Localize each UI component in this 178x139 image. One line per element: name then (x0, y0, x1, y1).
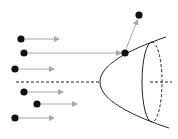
particle-5 (33, 100, 40, 107)
incoming-particles (11, 35, 121, 121)
particle-1 (17, 35, 24, 42)
deflected-particle (135, 11, 142, 18)
particle-6 (11, 114, 18, 121)
particle-4 (20, 88, 27, 95)
paraboloid-scattering-diagram (0, 0, 178, 139)
impact-particle (121, 49, 128, 56)
deflection-arrow (126, 20, 138, 49)
particle-2 (20, 49, 27, 56)
particle-3 (11, 65, 18, 72)
